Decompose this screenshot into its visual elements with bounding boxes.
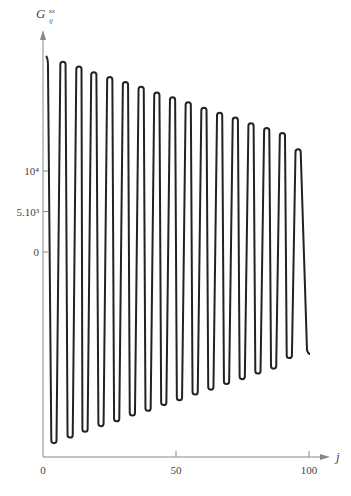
- x-tick-label: 0: [40, 464, 46, 476]
- x-tick-label: 50: [171, 464, 183, 476]
- x-tick-label: 100: [301, 464, 318, 476]
- y-axis-title-main: G: [36, 6, 46, 21]
- x-axis-arrow-icon: [320, 454, 330, 460]
- series-line: [46, 56, 310, 443]
- chart-canvas: 05.10³10⁴ 050100 G xx ij j: [0, 0, 351, 496]
- y-axis-title-sub: ij: [49, 17, 53, 25]
- y-axis-arrow-icon: [40, 30, 46, 40]
- y-tick-label: 0: [34, 246, 40, 258]
- x-ticks: 050100: [40, 451, 318, 476]
- x-axis-title: j: [334, 449, 340, 464]
- y-tick-label: 5.10³: [16, 206, 39, 218]
- y-tick-label: 10⁴: [24, 165, 39, 177]
- y-axis-title: G xx ij: [36, 1, 58, 25]
- y-axis-title-sup: xx: [48, 7, 56, 15]
